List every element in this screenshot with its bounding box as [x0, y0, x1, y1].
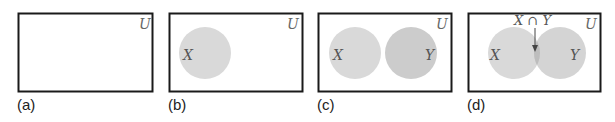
caption-a: (a): [17, 96, 35, 113]
panel-a: U: [19, 14, 153, 92]
caption-c: (c): [317, 96, 335, 113]
set-x-label: X: [332, 47, 344, 63]
universe-label: U: [139, 16, 152, 32]
intersection-label: X ∩ Y: [513, 13, 552, 28]
universe-label: U: [585, 16, 598, 32]
universe-label: U: [436, 16, 449, 32]
caption-d: (d): [467, 96, 485, 113]
universe-label: U: [287, 16, 300, 32]
panel-d: X Y X ∩ Y U: [469, 13, 601, 92]
panel-c: X Y U: [319, 14, 452, 92]
set-x-label: X: [182, 47, 194, 63]
universe-rect: [19, 14, 153, 92]
set-x-label: X: [489, 47, 501, 63]
caption-b: (b): [168, 96, 186, 113]
panel-b: X U: [170, 14, 303, 92]
venn-diagram-figure: U X U X Y U X Y X ∩ Y U: [0, 0, 615, 122]
